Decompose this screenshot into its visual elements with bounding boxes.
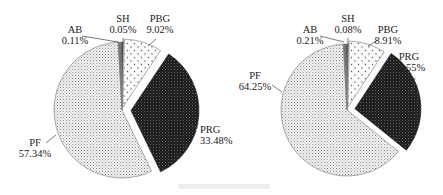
slice-percent-ab: 0.21%	[296, 35, 323, 46]
slice-percent-pbg: 9.02%	[146, 24, 173, 35]
slice-label-prg: PRG	[399, 51, 420, 62]
slice-label-pbg: PBG	[150, 13, 171, 24]
slice-label-pbg: PBG	[378, 24, 399, 35]
slice-label-pf: PF	[29, 137, 41, 148]
leader-line-pf	[46, 135, 56, 143]
slice-label-ab: AB	[68, 24, 83, 35]
slice-percent-ab: 0.11%	[62, 35, 89, 46]
slice-label-ab: AB	[303, 24, 318, 35]
slice-label-pf: PF	[249, 70, 261, 81]
slice-percent-pf: 57.34%	[19, 148, 52, 159]
slice-percent-sh: 0.05%	[109, 24, 136, 35]
pie-chart-right: SH0.08%PBG8.91%PRG26.55%PF64.25%AB0.21%	[239, 13, 426, 176]
slice-label-sh: SH	[116, 13, 130, 24]
leader-line-pf	[272, 85, 282, 92]
slice-percent-pbg: 8.91%	[374, 35, 401, 46]
pie-chart-left: SH0.05%PBG9.02%PRG33.48%PF57.34%AB0.11%	[19, 13, 233, 178]
slice-label-sh: SH	[341, 13, 355, 24]
slice-label-prg: PRG	[200, 124, 221, 135]
slice-percent-sh: 0.08%	[334, 24, 361, 35]
slice-percent-prg: 26.55%	[393, 62, 426, 73]
slice-percent-prg: 33.48%	[200, 135, 233, 146]
slice-percent-pf: 64.25%	[239, 81, 272, 92]
leader-line-pbg	[148, 39, 156, 46]
figure-caption	[178, 184, 270, 189]
pie-charts-figure: SH0.05%PBG9.02%PRG33.48%PF57.34%AB0.11% …	[0, 0, 443, 195]
leader-line-ab	[320, 36, 344, 42]
